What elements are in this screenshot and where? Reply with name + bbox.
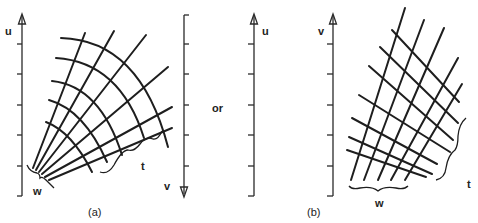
brace-label-w-b: w bbox=[374, 197, 384, 209]
axis-u-panel-b bbox=[248, 14, 258, 196]
axis-v-panel-b bbox=[327, 14, 337, 196]
brace-w-panel-b bbox=[349, 186, 408, 191]
curved-grid-panel-a bbox=[33, 31, 172, 180]
brace-label-t-b: t bbox=[467, 178, 471, 190]
caption-panel-a: (a) bbox=[88, 206, 101, 218]
brace-t-panel-a bbox=[100, 131, 162, 173]
brace-t-panel-b bbox=[436, 118, 466, 180]
axis-label-u-b: u bbox=[262, 25, 269, 37]
brace-label-w-a: w bbox=[32, 185, 42, 197]
axis-label-u-a: u bbox=[5, 25, 12, 37]
separator-or: or bbox=[212, 102, 224, 114]
caption-panel-b: (b) bbox=[307, 206, 320, 218]
skewed-grid-panel-b bbox=[347, 8, 462, 180]
axis-label-v-a: v bbox=[164, 180, 171, 192]
figure-canvas: u w t v (a) or bbox=[0, 0, 478, 223]
brace-label-t-a: t bbox=[141, 160, 145, 172]
axis-label-v-b: v bbox=[318, 25, 325, 37]
axis-u-panel-a bbox=[17, 14, 26, 196]
axis-v-panel-a bbox=[181, 15, 190, 197]
